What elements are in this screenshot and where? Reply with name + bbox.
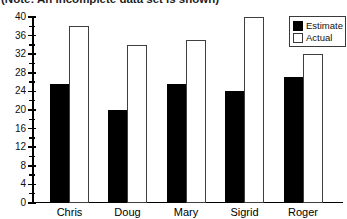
y-tick-label: 4 xyxy=(0,178,26,190)
y-tick-label: 0 xyxy=(0,197,26,209)
y-tick-label: 12 xyxy=(0,141,26,153)
y-major-tick xyxy=(28,128,36,130)
y-minor-tick xyxy=(29,174,35,176)
legend-label-actual: Actual xyxy=(306,33,332,43)
x-tick-label-chris: Chris xyxy=(40,205,100,219)
x-tick-label-doug: Doug xyxy=(98,205,158,219)
y-major-tick xyxy=(28,165,36,167)
y-tick-label: 40 xyxy=(0,11,26,23)
x-tick-label-roger: Roger xyxy=(273,205,333,219)
y-major-tick xyxy=(28,91,36,93)
y-major-tick xyxy=(28,184,36,186)
y-major-tick xyxy=(28,72,36,74)
y-major-tick xyxy=(28,202,36,204)
x-tick-label-mary: Mary xyxy=(156,205,216,219)
y-major-tick xyxy=(28,146,36,148)
y-major-tick xyxy=(28,53,36,55)
y-major-tick xyxy=(28,109,36,111)
y-tick-label: 32 xyxy=(0,48,26,60)
actual-swatch-icon xyxy=(293,33,303,43)
y-tick-label: 36 xyxy=(0,30,26,42)
y-major-tick xyxy=(28,35,36,37)
estimate-bar-roger xyxy=(284,77,303,203)
y-major-tick xyxy=(28,16,36,18)
x-tick-label-sigrid: Sigrid xyxy=(215,205,275,219)
y-tick-label: 8 xyxy=(0,160,26,172)
estimate-bar-mary xyxy=(167,84,186,203)
estimate-bar-sigrid xyxy=(225,91,244,203)
y-minor-tick xyxy=(29,137,35,139)
y-tick-label: 20 xyxy=(0,104,26,116)
y-minor-tick xyxy=(29,156,35,158)
estimate-bar-chris xyxy=(50,84,69,203)
actual-bar-chris xyxy=(69,26,89,203)
y-minor-tick xyxy=(29,26,35,28)
actual-bar-sigrid xyxy=(244,17,264,203)
y-minor-tick xyxy=(29,119,35,121)
legend-item-actual: Actual xyxy=(293,33,345,43)
legend: Estimate Actual xyxy=(289,16,346,47)
estimate-swatch-icon xyxy=(293,21,303,31)
actual-bar-mary xyxy=(186,40,206,203)
legend-item-estimate: Estimate xyxy=(293,21,345,31)
y-minor-tick xyxy=(29,193,35,195)
actual-bar-roger xyxy=(303,54,323,203)
y-tick-label: 28 xyxy=(0,67,26,79)
estimate-bar-doug xyxy=(108,110,127,203)
y-tick-label: 16 xyxy=(0,123,26,135)
bar-chart: (Note: An incomplete data set is shown) … xyxy=(0,0,347,219)
legend-label-estimate: Estimate xyxy=(306,21,343,31)
y-minor-tick xyxy=(29,63,35,65)
y-minor-tick xyxy=(29,44,35,46)
y-minor-tick xyxy=(29,100,35,102)
chart-note: (Note: An incomplete data set is shown) xyxy=(1,0,219,5)
y-minor-tick xyxy=(29,81,35,83)
y-tick-label: 24 xyxy=(0,85,26,97)
actual-bar-doug xyxy=(127,45,147,203)
